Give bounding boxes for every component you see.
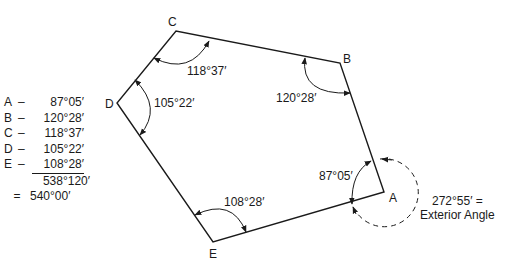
tally-dash: – — [18, 126, 32, 142]
angle-label-e: 108°28′ — [224, 195, 265, 209]
exterior-angle-arc — [355, 159, 418, 227]
tally-subtotal: 538°120′ — [4, 174, 90, 190]
tally-equals: = — [4, 189, 30, 205]
tally-value: 118°37′ — [32, 126, 84, 142]
tally-dash: – — [18, 95, 32, 111]
vertex-label-e: E — [209, 247, 217, 261]
tally-value: 87°05′ — [32, 95, 84, 111]
tally-key: B — [4, 111, 18, 127]
angle-arc-a — [352, 161, 371, 204]
tally-key: A — [4, 95, 18, 111]
tally-row-e: E – 108°28′ — [4, 157, 90, 174]
angle-sum-tally: A – 87°05′ B – 120°28′ C – 118°37′ D – 1… — [4, 95, 90, 205]
exterior-angle-caption: Exterior Angle — [420, 208, 495, 222]
tally-value: 108°28′ — [32, 157, 84, 174]
angle-label-b: 120°28′ — [276, 91, 317, 105]
angle-label-c: 118°37′ — [187, 64, 227, 78]
tally-subtotal-row: 538°120′ — [4, 174, 90, 190]
tally-key: E — [4, 157, 18, 174]
angle-arc-c — [154, 41, 209, 64]
tally-dash: – — [18, 142, 32, 158]
tally-value: 120°28′ — [32, 111, 84, 127]
vertex-label-b: B — [343, 52, 351, 66]
tally-row-a: A – 87°05′ — [4, 95, 90, 111]
tally-key: D — [4, 142, 18, 158]
exterior-angle-value: 272°55′ = — [432, 194, 483, 208]
vertex-label-c: C — [168, 15, 177, 29]
angle-arc-e — [195, 209, 246, 232]
angle-label-d: 105°22′ — [154, 96, 195, 110]
angle-label-a: 87°05′ — [319, 169, 353, 183]
tally-total: 540°00′ — [30, 189, 70, 205]
tally-dash: – — [18, 157, 32, 174]
vertex-label-d: D — [105, 97, 114, 111]
tally-row-d: D – 105°22′ — [4, 142, 90, 158]
tally-row-b: B – 120°28′ — [4, 111, 90, 127]
vertex-label-a: A — [389, 191, 397, 205]
tally-total-row: = 540°00′ — [4, 189, 90, 205]
tally-dash: – — [18, 111, 32, 127]
tally-row-c: C – 118°37′ — [4, 126, 90, 142]
angle-arc-d — [135, 80, 150, 135]
tally-value: 105°22′ — [32, 142, 84, 158]
tally-key: C — [4, 126, 18, 142]
